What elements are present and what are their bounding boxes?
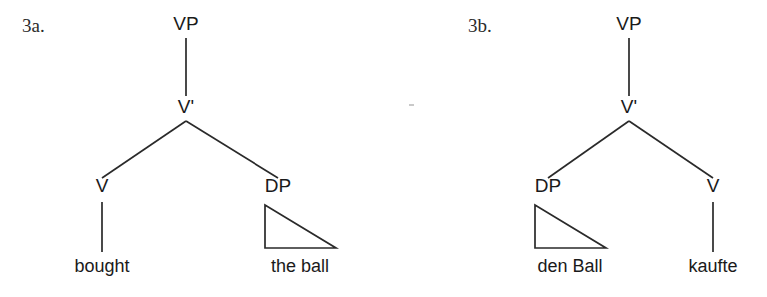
node-label-dp-3b: DP [535,175,561,196]
terminal-the-ball-3a: the ball [271,256,329,276]
node-label-v-3b: V [707,175,720,196]
syntax-tree-figure: 3a. VP V' V bought DP the ball 3b. VP V' [0,0,767,297]
edge-vbar-to-v-3b [629,121,713,178]
node-label-vbar-3b: V' [621,96,637,117]
node-label-v-3a: V [96,175,109,196]
tree-3a: 3a. VP V' V bought DP the ball [22,13,336,276]
node-label-vp-3b: VP [616,13,641,34]
terminal-kaufte-3b: kaufte [688,256,737,276]
edge-vbar-to-dp-3b [548,121,629,178]
terminal-den-ball-3b: den Ball [537,256,602,276]
node-label-vp-3a: VP [173,13,198,34]
syntax-trees-canvas: 3a. VP V' V bought DP the ball 3b. VP V' [0,0,767,297]
node-label-vbar-3a: V' [178,96,194,117]
example-number-3b: 3b. [468,15,492,36]
terminal-bought-3a: bought [74,256,129,276]
triangle-dp-3b [535,205,606,248]
stray-speck [409,104,414,106]
example-number-3a: 3a. [22,15,45,36]
node-label-dp-3a: DP [265,175,291,196]
edge-vbar-to-dp-3a [186,121,278,178]
edge-vbar-to-v-3a [102,121,186,178]
tree-3b: 3b. VP V' DP den Ball V kaufte [468,13,738,276]
triangle-dp-3a [265,205,336,248]
